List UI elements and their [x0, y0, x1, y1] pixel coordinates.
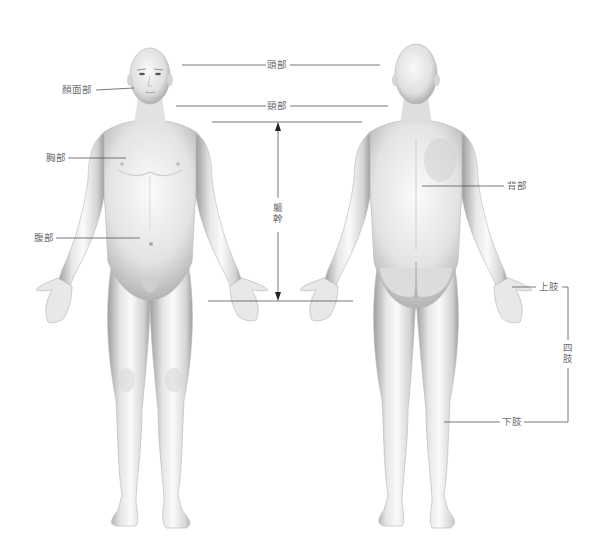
front-right-leg [150, 262, 192, 528]
back-left-arm [324, 134, 370, 286]
back-head [395, 44, 437, 104]
front-figure [36, 48, 268, 528]
label-back: 背部 [507, 181, 527, 191]
front-right-arm [196, 134, 242, 286]
front-left-leg [108, 262, 150, 526]
back-left-hand [300, 278, 338, 321]
label-abdomen: 腹部 [34, 233, 54, 243]
label-neck: 頸部 [267, 101, 287, 111]
back-right-hand [494, 278, 532, 323]
label-trunk: 軀幹 [273, 203, 283, 225]
label-lower-limb: 下肢 [502, 417, 522, 427]
front-right-hand [230, 278, 268, 321]
label-limbs: 四肢 [563, 343, 573, 365]
anatomy-diagram: 頭部 顏面部 頸部 胸部 腹部 軀幹 背部 上肢 四肢 下肢 [0, 0, 606, 556]
front-left-hand [36, 278, 72, 323]
label-face: 顏面部 [62, 85, 92, 95]
label-upper-limb: 上肢 [539, 282, 559, 292]
back-right-arm [462, 134, 508, 286]
label-head: 頭部 [267, 60, 287, 70]
back-figure [300, 44, 532, 528]
label-chest: 胸部 [46, 153, 66, 163]
